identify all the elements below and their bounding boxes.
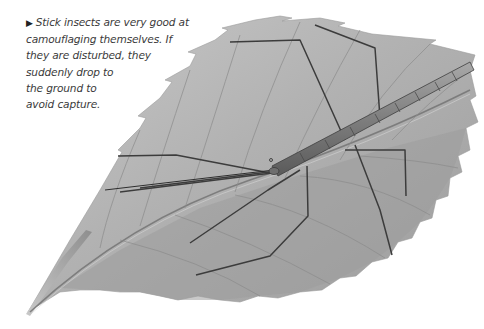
caption-line-6: avoid capture. [26,96,196,112]
caption-line-5: the ground to [26,80,196,96]
caption-line-4: suddenly drop to [26,64,196,80]
caption-line-1: ▶Stick insects are very good at [26,14,196,31]
caption-line-2: camouflaging themselves. If [26,31,196,47]
caption-line-3: they are disturbed, they [26,47,196,63]
caption-text: ▶Stick insects are very good at camoufla… [26,14,196,112]
right-triangle-bullet-icon: ▶ [26,18,33,28]
